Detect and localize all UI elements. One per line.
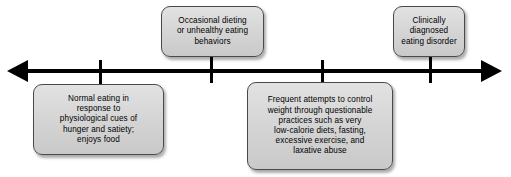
connector-clinical-eating-disorder	[429, 56, 432, 70]
eating-continuum-diagram: Normal eating in response to physiologic…	[0, 0, 511, 177]
left-arrow-icon	[7, 60, 28, 82]
right-arrow-icon	[481, 60, 502, 82]
node-clinical-eating-disorder: Clinically diagnosed eating disorder	[393, 6, 465, 57]
continuum-axis-line	[22, 69, 492, 73]
connector-occasional-dieting	[210, 56, 213, 70]
node-normal-eating: Normal eating in response to physiologic…	[33, 84, 164, 155]
node-frequent-attempts: Frequent attempts to control weight thro…	[247, 82, 393, 170]
node-occasional-dieting: Occasional dieting or unhealthy eating b…	[161, 6, 264, 57]
